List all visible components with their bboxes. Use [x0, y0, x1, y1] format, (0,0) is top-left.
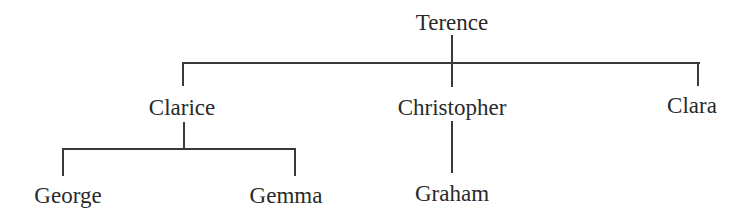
node-christopher: Christopher [398, 96, 507, 119]
connector-clarice-bar [62, 148, 296, 150]
node-gemma: Gemma [250, 184, 323, 207]
connector-terence-stem [451, 35, 453, 87]
node-graham: Graham [415, 182, 489, 205]
connector-christopher-to-graham [451, 121, 453, 173]
node-clara: Clara [667, 94, 717, 117]
connector-clarice-stem [183, 122, 185, 150]
node-george: George [34, 184, 101, 207]
family-tree-diagram: Terence Clarice Christopher Clara George… [0, 0, 747, 223]
node-terence: Terence [416, 11, 488, 34]
connector-to-gemma [294, 148, 296, 176]
connector-gen2-bar [182, 62, 700, 64]
connector-to-clarice [182, 62, 184, 86]
node-clarice: Clarice [149, 96, 215, 119]
connector-to-george [62, 148, 64, 176]
connector-to-clara [697, 62, 699, 86]
